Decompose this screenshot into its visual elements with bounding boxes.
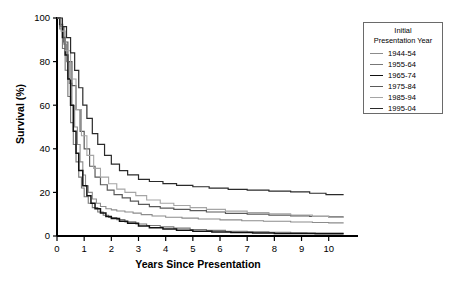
y-axis-title: Survival (%) — [14, 64, 26, 164]
legend-entries: 1944-541955-641965-741975-841985-941995-… — [366, 48, 440, 114]
legend-label: 1985-94 — [388, 92, 416, 103]
legend-label: 1965-74 — [388, 70, 416, 81]
series-line-1965-74 — [57, 18, 344, 234]
legend-item-1985-94[interactable]: 1985-94 — [366, 92, 440, 103]
y-tick-label: 80 — [39, 56, 50, 67]
x-tick-label: 4 — [163, 243, 168, 254]
legend-item-1965-74[interactable]: 1965-74 — [366, 70, 440, 81]
x-tick-label: 8 — [272, 243, 277, 254]
y-tick-label: 60 — [39, 100, 50, 111]
x-tick-label: 10 — [323, 243, 334, 254]
legend-title-line2: Presentation Year — [366, 36, 440, 46]
legend-item-1995-04[interactable]: 1995-04 — [366, 103, 440, 114]
legend-swatch-icon — [370, 53, 383, 54]
legend-title-line1: Initial — [366, 26, 440, 36]
y-tick-label: 100 — [34, 12, 50, 23]
series-line-1985-94 — [57, 18, 344, 217]
x-tick-label: 0 — [54, 243, 59, 254]
legend-item-1955-64[interactable]: 1955-64 — [366, 59, 440, 70]
y-tick-label: 40 — [39, 143, 50, 154]
legend-item-1975-84[interactable]: 1975-84 — [366, 81, 440, 92]
legend-label: 1944-54 — [388, 48, 416, 59]
x-tick-label: 9 — [299, 243, 304, 254]
legend-swatch-icon — [370, 97, 383, 98]
legend-swatch-icon — [370, 108, 383, 109]
legend-swatch-icon — [370, 64, 383, 65]
x-axis-title: Years Since Presentation — [57, 258, 339, 270]
legend-label: 1975-84 — [388, 81, 416, 92]
legend-box: Initial Presentation Year 1944-541955-64… — [363, 22, 443, 114]
legend-label: 1955-64 — [388, 59, 416, 70]
x-tick-label: 6 — [217, 243, 222, 254]
series-line-1955-64 — [57, 18, 344, 233]
figure-container: 020406080100012345678910 Survival (%) Ye… — [0, 0, 463, 282]
x-tick-label: 7 — [245, 243, 250, 254]
legend-label: 1995-04 — [388, 103, 416, 114]
x-tick-label: 5 — [190, 243, 195, 254]
legend-swatch-icon — [370, 86, 383, 87]
x-tick-label: 3 — [136, 243, 141, 254]
y-tick-label: 0 — [45, 230, 50, 241]
legend-item-1944-54[interactable]: 1944-54 — [366, 48, 440, 59]
x-tick-label: 2 — [109, 243, 114, 254]
y-tick-label: 20 — [39, 187, 50, 198]
x-tick-label: 1 — [82, 243, 87, 254]
legend-swatch-icon — [370, 75, 383, 76]
